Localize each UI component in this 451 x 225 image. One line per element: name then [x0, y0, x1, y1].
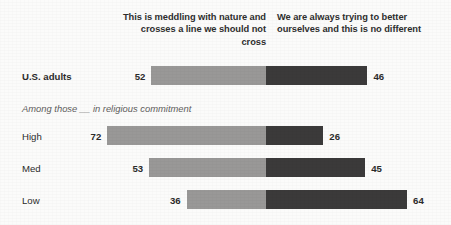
bar-value-left: 53 [132, 162, 143, 173]
bar-segment-left: 72 [107, 126, 266, 145]
bar-value-left: 72 [91, 130, 102, 141]
bar-value-left: 52 [135, 70, 146, 81]
chart-row-low: Low 36 64 [0, 190, 451, 209]
row-label: High [22, 130, 42, 141]
bar-segment-right: 26 [266, 126, 323, 145]
bar-segment-left: 52 [151, 66, 266, 85]
bar-segment-right: 46 [266, 66, 367, 85]
row-label: U.S. adults [22, 70, 72, 81]
column-header-left: This is meddling with nature and crosses… [116, 11, 266, 48]
chart-row-med: Med 53 45 [0, 158, 451, 177]
bar-value-right: 45 [371, 162, 382, 173]
row-label: Med [22, 162, 41, 173]
bar-group: 53 45 [266, 158, 365, 177]
bar-group: 52 46 [266, 66, 367, 85]
bar-segment-left: 53 [149, 158, 266, 177]
bar-value-right: 64 [413, 194, 424, 205]
bar-value-right: 46 [373, 70, 384, 81]
bar-segment-right: 45 [266, 158, 365, 177]
bar-segment-left: 36 [187, 190, 266, 209]
chart-row-high: High 72 26 [0, 126, 451, 145]
bar-value-left: 36 [170, 194, 181, 205]
column-header-right: We are always trying to better ourselves… [277, 11, 437, 36]
group-subhead: Among those __ in religious commitment [22, 103, 191, 114]
bar-segment-right: 64 [266, 190, 407, 209]
row-label: Low [22, 194, 40, 205]
bar-group: 36 64 [266, 190, 407, 209]
bar-value-right: 26 [329, 130, 340, 141]
bar-group: 72 26 [266, 126, 323, 145]
diverging-bar-chart: This is meddling with nature and crosses… [0, 0, 451, 225]
chart-row-us-adults: U.S. adults 52 46 [0, 66, 451, 85]
